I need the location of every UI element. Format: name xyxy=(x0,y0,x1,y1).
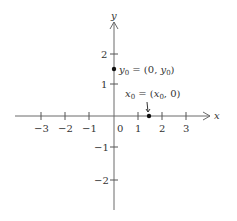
point-y0: y0 = (0, y0) xyxy=(112,64,175,77)
coordinate-plane: x y −3 −2 −1 0 1 2 3 2 1 −1 −2 y0 = (0, … xyxy=(0,0,237,221)
point-marker-icon xyxy=(147,114,151,118)
x-tick-label: 1 xyxy=(135,123,141,134)
x-axis: x xyxy=(15,110,220,121)
point-marker-icon xyxy=(112,67,116,71)
point-y0-label: y0 = (0, y0) xyxy=(118,64,175,77)
x-axis-label: x xyxy=(214,110,220,121)
point-x0-label: x0 = (x0, 0) xyxy=(125,88,181,101)
y-tick-label: −1 xyxy=(94,142,109,153)
origin-label: 0 xyxy=(117,123,123,134)
x-tick-label: −3 xyxy=(34,123,49,134)
y-tick-label: −2 xyxy=(94,175,109,186)
x-ticks: −3 −2 −1 0 1 2 3 xyxy=(34,112,189,134)
y-axis-label: y xyxy=(110,10,117,21)
x-tick-label: 2 xyxy=(159,123,165,134)
x-tick-label: −1 xyxy=(82,123,97,134)
x-tick-label: 3 xyxy=(183,123,189,134)
y-tick-label: 1 xyxy=(101,79,107,90)
point-x0: x0 = (x0, 0) xyxy=(125,88,181,118)
y-tick-label: 2 xyxy=(101,49,107,60)
x-tick-label: −2 xyxy=(58,123,73,134)
